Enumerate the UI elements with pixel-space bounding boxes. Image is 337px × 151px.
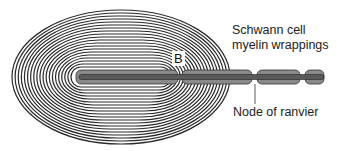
schwann-label-line1: Schwann cell xyxy=(232,23,329,38)
axon-core xyxy=(79,75,324,80)
schwann-label-line2: myelin wrappings xyxy=(232,38,329,53)
axon xyxy=(76,70,324,84)
schwann-cell-label: Schwann cell myelin wrappings xyxy=(232,23,329,53)
b-marker-label: B xyxy=(172,51,185,66)
node-of-ranvier-label: Node of ranvier xyxy=(233,105,318,120)
